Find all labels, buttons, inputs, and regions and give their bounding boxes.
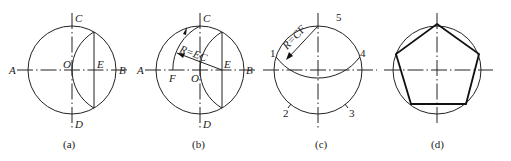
label-C: C <box>203 12 211 24</box>
label-B: B <box>119 64 126 76</box>
label-B: B <box>246 64 253 76</box>
figure-c: R=CF 1 2 3 4 5 (c) <box>263 11 377 151</box>
caption-b: (b) <box>192 138 205 151</box>
figure-a: A B C D O E (a) <box>8 12 128 151</box>
label-C: C <box>75 12 83 24</box>
label-D: D <box>202 118 211 130</box>
radius-label: R=EC <box>177 42 209 63</box>
label-A: A <box>8 64 16 76</box>
label-O: O <box>191 72 199 84</box>
label-E: E <box>223 58 231 70</box>
point-4: 4 <box>360 47 366 59</box>
point-2: 2 <box>283 107 289 119</box>
label-F: F <box>168 72 176 84</box>
caption-c: (c) <box>315 138 328 151</box>
label-D: D <box>74 118 83 130</box>
point-3: 3 <box>349 107 355 119</box>
point-5: 5 <box>336 11 342 23</box>
label-O: O <box>63 58 71 70</box>
label-A: A <box>136 64 144 76</box>
caption-d: (d) <box>431 138 444 151</box>
caption-a: (a) <box>63 138 76 151</box>
tick-3 <box>345 104 348 108</box>
label-E: E <box>96 58 104 70</box>
figure-b: R=EC A B C D O E F (b) <box>136 12 256 151</box>
point-1: 1 <box>270 47 276 59</box>
radius-label: R=CF <box>279 22 308 52</box>
diagram-canvas: A B C D O E (a) R=EC A B C D O E F (b) <box>0 0 511 161</box>
figure-d: (d) <box>384 13 493 151</box>
